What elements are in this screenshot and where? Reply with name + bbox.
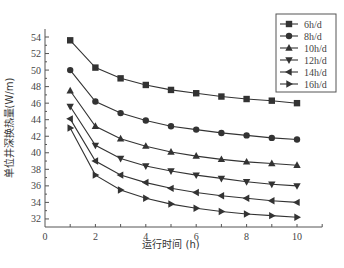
square-marker-icon [243, 96, 249, 102]
triangle-left-marker-icon [117, 171, 124, 178]
triangle-right-marker-icon [219, 208, 226, 215]
circle-marker-icon [92, 98, 98, 104]
circle-marker-icon [286, 33, 292, 39]
circle-marker-icon [67, 67, 73, 73]
square-marker-icon [294, 100, 300, 106]
legend-label: 6h/d [304, 19, 322, 30]
triangle-left-marker-icon [91, 157, 98, 164]
legend: 6h/d8h/d10h/d12h/d14h/d16h/d [276, 14, 336, 92]
square-marker-icon [286, 21, 292, 27]
y-tick-label: 34 [31, 197, 41, 208]
circle-marker-icon [269, 135, 275, 141]
legend-label: 16h/d [304, 79, 327, 90]
x-tick-label: 10 [292, 231, 302, 242]
triangle-left-marker-icon [167, 185, 174, 192]
legend-label: 10h/d [304, 43, 327, 54]
series-line [70, 40, 297, 103]
y-tick-label: 50 [31, 65, 41, 76]
circle-marker-icon [117, 110, 123, 116]
triangle-right-marker-icon [118, 186, 125, 193]
series-10h-d [67, 87, 301, 168]
circle-marker-icon [294, 136, 300, 142]
y-axis-title: 单位井深换热量(W/m) [3, 78, 15, 179]
circle-marker-icon [218, 130, 224, 136]
series-12h-d [67, 104, 301, 190]
triangle-right-marker-icon [93, 171, 100, 178]
triangle-down-marker-icon [67, 104, 74, 111]
circle-marker-icon [243, 132, 249, 138]
square-marker-icon [168, 87, 174, 93]
circle-marker-icon [143, 117, 149, 123]
legend-label: 8h/d [304, 31, 322, 42]
triangle-up-marker-icon [117, 135, 124, 142]
triangle-left-marker-icon [293, 199, 300, 206]
y-tick-label: 44 [31, 114, 41, 125]
triangle-right-marker-icon [68, 124, 75, 131]
y-tick-label: 46 [31, 98, 41, 109]
y-tick-label: 32 [31, 213, 41, 224]
y-tick-label: 42 [31, 131, 41, 142]
x-tick-label: 2 [93, 231, 98, 242]
circle-marker-icon [168, 123, 174, 129]
y-tick-label: 52 [31, 48, 41, 59]
triangle-right-marker-icon [168, 200, 175, 207]
y-tick-label: 40 [31, 147, 41, 158]
x-tick-label: 8 [244, 231, 249, 242]
legend-label: 14h/d [304, 67, 327, 78]
y-tick-label: 38 [31, 164, 41, 175]
square-marker-icon [143, 82, 149, 88]
triangle-right-marker-icon [143, 195, 150, 202]
y-tick-label: 48 [31, 81, 41, 92]
square-marker-icon [218, 93, 224, 99]
triangle-left-marker-icon [192, 189, 199, 196]
line-chart: 3234363840424446485052540246810 6h/d8h/d… [0, 0, 344, 268]
triangle-down-marker-icon [293, 183, 300, 190]
square-marker-icon [67, 37, 73, 43]
circle-marker-icon [193, 126, 199, 132]
triangle-down-marker-icon [92, 143, 99, 150]
square-marker-icon [92, 64, 98, 70]
triangle-right-marker-icon [244, 210, 251, 217]
triangle-up-marker-icon [67, 87, 74, 94]
series-line [70, 119, 297, 202]
series-line [70, 70, 297, 139]
series-8h-d [67, 67, 300, 143]
triangle-right-marker-icon [269, 212, 276, 219]
triangle-left-marker-icon [142, 179, 149, 186]
y-tick-label: 54 [31, 32, 41, 43]
x-tick-label: 0 [43, 231, 48, 242]
square-marker-icon [117, 75, 123, 81]
legend-label: 12h/d [304, 55, 327, 66]
y-tick-label: 36 [31, 180, 41, 191]
series-line [70, 107, 297, 186]
triangle-left-marker-icon [243, 195, 250, 202]
triangle-left-marker-icon [268, 197, 275, 204]
x-axis-title: 运行时间 (h) [142, 238, 199, 250]
triangle-left-marker-icon [66, 115, 73, 122]
triangle-right-marker-icon [194, 204, 201, 211]
square-marker-icon [269, 97, 275, 103]
square-marker-icon [193, 90, 199, 96]
triangle-right-marker-icon [294, 214, 301, 221]
series-6h-d [67, 37, 300, 106]
triangle-left-marker-icon [217, 192, 224, 199]
series-group [66, 37, 301, 221]
